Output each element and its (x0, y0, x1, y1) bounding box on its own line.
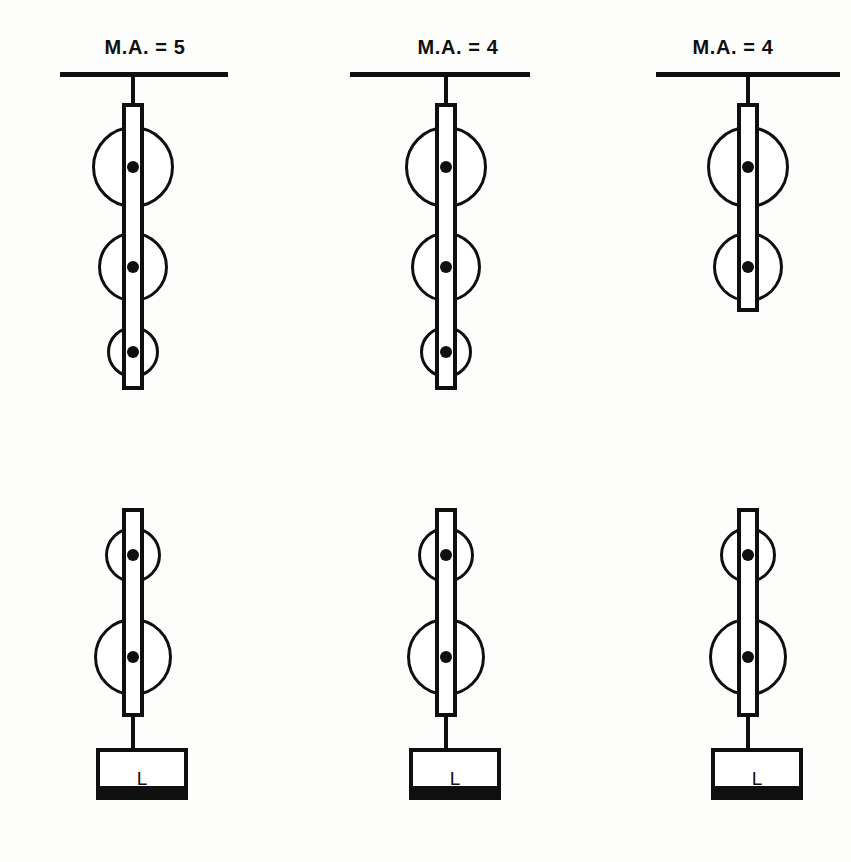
pulley-systems-diagram: M.A. = 5 L M.A. = 4 (0, 0, 851, 862)
bottom-axle-2a (440, 549, 452, 561)
bottom-axle-3a (742, 549, 754, 561)
bottom-axle-1b (127, 651, 139, 663)
load-base-3 (711, 786, 803, 800)
top-axle-1b (127, 261, 139, 273)
ceiling-hanger-rope-2 (444, 75, 448, 105)
top-axle-3b (742, 261, 754, 273)
pulley-system-1: M.A. = 5 L (0, 0, 290, 862)
load-base-1 (96, 786, 188, 800)
top-axle-2c (440, 346, 452, 358)
top-block-strap-3 (737, 103, 759, 312)
top-axle-1a (127, 161, 139, 173)
mechanical-advantage-label-2: M.A. = 4 (313, 36, 603, 59)
top-axle-1c (127, 346, 139, 358)
bottom-axle-1a (127, 549, 139, 561)
load-base-2 (409, 786, 501, 800)
pulley-system-2: M.A. = 4 L (313, 0, 603, 862)
bottom-block-strap-3 (737, 508, 759, 717)
bottom-block-strap-2 (435, 508, 457, 717)
pulley-system-3: M.A. = 4 L (615, 0, 851, 862)
load-rope-3 (746, 714, 750, 752)
mechanical-advantage-label-3: M.A. = 4 (615, 36, 851, 59)
top-axle-3a (742, 161, 754, 173)
top-axle-2a (440, 161, 452, 173)
ceiling-support-1 (60, 72, 228, 77)
mechanical-advantage-label-1: M.A. = 5 (0, 36, 290, 59)
ceiling-support-2 (350, 72, 530, 77)
bottom-axle-2b (440, 651, 452, 663)
load-rope-1 (131, 714, 135, 752)
bottom-block-strap-1 (122, 508, 144, 717)
ceiling-hanger-rope-1 (131, 75, 135, 105)
load-rope-2 (444, 714, 448, 752)
top-axle-2b (440, 261, 452, 273)
ceiling-hanger-rope-3 (746, 75, 750, 105)
bottom-axle-3b (742, 651, 754, 663)
